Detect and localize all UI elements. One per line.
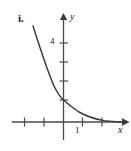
y-axis-arrow-icon <box>60 13 67 20</box>
x-tick-label-1: 1 <box>75 125 80 135</box>
exponential-decay-figure: i. y x 4 1 <box>0 0 131 151</box>
x-axis-label: x <box>118 124 122 135</box>
x-axis-arrow-icon <box>122 118 130 126</box>
exponential-decay-curve <box>33 26 121 122</box>
y-tick-label-4: 4 <box>50 36 55 46</box>
figure-item-label: i. <box>18 12 24 24</box>
y-axis-label: y <box>70 11 74 22</box>
